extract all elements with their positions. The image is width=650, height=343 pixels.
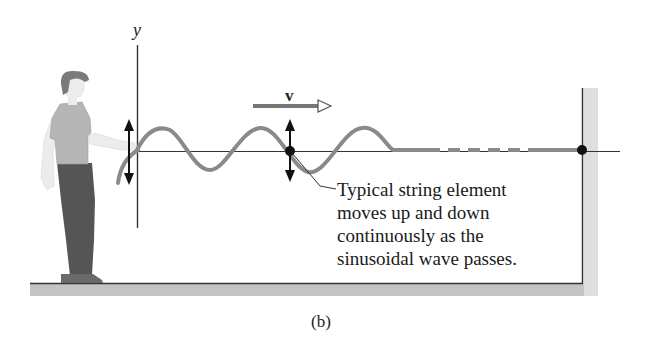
- velocity-label: v: [285, 86, 294, 106]
- sinusoidal-wave: [137, 128, 393, 172]
- wall-attachment-dot: [577, 145, 587, 155]
- wall: [583, 88, 599, 296]
- annotation-line: moves up and down: [337, 202, 490, 224]
- annotation-line: continuously as the: [337, 225, 484, 247]
- floor: [30, 284, 598, 297]
- annotation-line: sinusoidal wave passes.: [337, 248, 517, 270]
- part-label: (b): [311, 312, 331, 332]
- wave-diagram: [0, 0, 650, 343]
- annotation-line: Typical string element: [337, 179, 507, 201]
- y-axis-label: y: [133, 20, 141, 41]
